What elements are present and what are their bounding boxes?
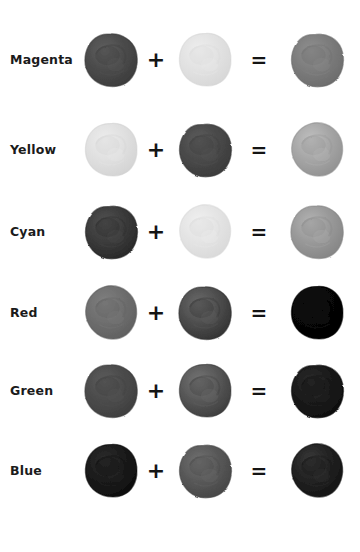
mixing-row: Magenta + bbox=[0, 20, 360, 100]
plus-operator-icon: + bbox=[145, 221, 167, 243]
equals-operator-icon: = bbox=[247, 303, 271, 323]
cyan-paint-blob bbox=[82, 203, 140, 261]
equals-operator-icon: = bbox=[247, 222, 271, 242]
equals-operator-icon: = bbox=[247, 50, 271, 70]
green-result-blob bbox=[288, 203, 346, 261]
row-label: Blue bbox=[10, 465, 42, 478]
cyan-paint-blob bbox=[176, 284, 234, 342]
mixing-row: Red + bbox=[0, 273, 360, 353]
black-result-blob bbox=[288, 362, 346, 420]
equals-operator-icon: = bbox=[247, 461, 271, 481]
plus-operator-icon: + bbox=[145, 460, 167, 482]
equals-operator-icon: = bbox=[247, 140, 271, 160]
color-mixing-figure: Magenta + bbox=[0, 0, 360, 552]
blue-paint-blob bbox=[82, 442, 140, 500]
green-paint-blob bbox=[82, 362, 140, 420]
yellow-paint-blob bbox=[82, 121, 140, 179]
plus-operator-icon: + bbox=[145, 302, 167, 324]
plus-operator-icon: + bbox=[145, 380, 167, 402]
magenta-paint-blob bbox=[82, 31, 140, 89]
plus-operator-icon: + bbox=[145, 139, 167, 161]
row-label: Cyan bbox=[10, 226, 45, 239]
plus-operator-icon: + bbox=[145, 49, 167, 71]
row-label: Green bbox=[10, 385, 53, 398]
yellow-paint-blob bbox=[176, 31, 234, 89]
mixing-row: Green + bbox=[0, 351, 360, 431]
row-label: Yellow bbox=[10, 144, 56, 157]
magenta-paint-blob bbox=[176, 362, 234, 420]
black-result-blob bbox=[288, 284, 346, 342]
row-label: Magenta bbox=[10, 54, 73, 67]
mixing-row: Yellow + bbox=[0, 110, 360, 190]
mixing-row: Cyan + bbox=[0, 192, 360, 272]
yellow-paint-blob bbox=[176, 203, 234, 261]
green-result-blob bbox=[288, 121, 346, 179]
black-result-blob bbox=[288, 442, 346, 500]
red-paint-blob bbox=[82, 284, 140, 342]
mixing-row: Blue + bbox=[0, 431, 360, 511]
row-label: Red bbox=[10, 307, 38, 320]
red-result-blob bbox=[288, 31, 346, 89]
equals-operator-icon: = bbox=[247, 381, 271, 401]
cyan-paint-blob bbox=[176, 121, 234, 179]
yellow-paint-blob bbox=[176, 442, 234, 500]
